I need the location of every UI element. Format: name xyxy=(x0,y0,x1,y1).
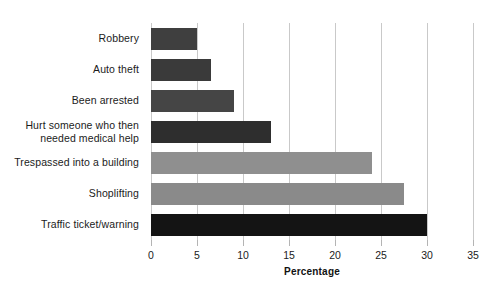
category-label: Been arrested xyxy=(0,94,139,107)
x-tick-mark xyxy=(335,240,336,246)
gridline-30 xyxy=(427,23,428,240)
category-label: Shoplifting xyxy=(0,187,139,200)
x-tick-mark xyxy=(151,240,152,246)
x-tick-mark xyxy=(427,240,428,246)
x-tick-mark xyxy=(289,240,290,246)
x-tick-mark xyxy=(243,240,244,246)
x-tick-label: 25 xyxy=(361,249,401,261)
bar xyxy=(151,59,211,81)
category-label: Robbery xyxy=(0,32,139,45)
bar xyxy=(151,28,197,50)
gridline-25 xyxy=(381,23,382,240)
category-label-column: RobberyAuto theftBeen arrestedHurt someo… xyxy=(0,23,145,240)
category-label: Auto theft xyxy=(0,63,139,76)
bar xyxy=(151,214,427,236)
bar xyxy=(151,183,404,205)
x-tick-label: 10 xyxy=(223,249,263,261)
category-label: Traffic ticket/warning xyxy=(0,218,139,231)
x-tick-mark xyxy=(197,240,198,246)
gridline-20 xyxy=(335,23,336,240)
gridline-35 xyxy=(473,23,474,240)
x-tick-label: 5 xyxy=(177,249,217,261)
x-tick-label: 0 xyxy=(131,249,171,261)
bar xyxy=(151,90,234,112)
x-tick-label: 30 xyxy=(407,249,447,261)
x-axis-title: Percentage xyxy=(151,266,473,277)
x-tick-label: 15 xyxy=(269,249,309,261)
x-tick-mark xyxy=(473,240,474,246)
plot-area xyxy=(151,23,473,240)
bar xyxy=(151,121,271,143)
bar-chart: RobberyAuto theftBeen arrestedHurt someo… xyxy=(0,0,500,292)
x-tick-label: 35 xyxy=(453,249,493,261)
gridline-15 xyxy=(289,23,290,240)
x-tick-label: 20 xyxy=(315,249,355,261)
bar xyxy=(151,152,372,174)
category-label: Trespassed into a building xyxy=(0,156,139,169)
category-label: Hurt someone who then needed medical hel… xyxy=(0,119,139,144)
x-tick-mark xyxy=(381,240,382,246)
